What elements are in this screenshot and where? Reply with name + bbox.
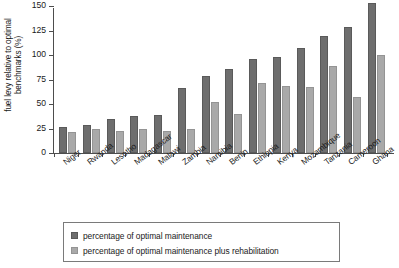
y-axis-tick-label: 125: [32, 25, 46, 35]
bar-optimal-maintenance: [178, 88, 186, 153]
bar-group: [342, 6, 366, 153]
y-axis-tick-label: 150: [32, 0, 46, 10]
bar-series-container: [53, 6, 394, 153]
bar-optimal-maintenance-plus-rehab: [306, 87, 314, 153]
bar-group: [200, 6, 224, 153]
legend-label: percentage of optimal maintenance plus r…: [83, 246, 279, 256]
legend-item: percentage of optimal maintenance plus r…: [71, 243, 332, 258]
bar-group: [152, 6, 176, 153]
bar-group: [57, 6, 81, 153]
bar-group: [271, 6, 295, 153]
bar-group: [366, 6, 390, 153]
bar-group: [223, 6, 247, 153]
bar-optimal-maintenance-plus-rehab: [211, 102, 219, 153]
bar-group: [81, 6, 105, 153]
bar-chart-figure: fuel levy relative to optimal benchmarks…: [0, 0, 399, 268]
bar-optimal-maintenance: [368, 3, 376, 153]
bar-group: [176, 6, 200, 153]
y-axis-tick-label: 50: [36, 98, 46, 108]
bar-optimal-maintenance: [344, 27, 352, 153]
y-axis-tick-label: 25: [36, 123, 46, 133]
bar-optimal-maintenance: [273, 57, 281, 153]
legend-item: percentage of optimal maintenance: [71, 228, 332, 243]
x-axis-tick: [54, 153, 55, 157]
bar-optimal-maintenance-plus-rehab: [282, 86, 290, 153]
light-swatch-icon: [71, 247, 78, 254]
bar-group: [105, 6, 129, 153]
y-axis-title: fuel levy relative to optimal benchmarks…: [4, 0, 24, 130]
bar-optimal-maintenance-plus-rehab: [258, 83, 266, 153]
bar-group: [247, 6, 271, 153]
bar-optimal-maintenance: [202, 76, 210, 153]
bar-group: [295, 6, 319, 153]
y-axis-tick-label: 75: [36, 74, 46, 84]
bar-optimal-maintenance: [297, 48, 305, 153]
y-axis-title-wrap: fuel levy relative to optimal benchmarks…: [0, 0, 26, 160]
legend-label: percentage of optimal maintenance: [83, 231, 212, 241]
y-axis-tick-label: 0: [41, 147, 46, 157]
bar-optimal-maintenance: [59, 127, 67, 153]
dark-swatch-icon: [71, 232, 78, 239]
bar-optimal-maintenance-plus-rehab: [353, 97, 361, 153]
y-axis-tick-label: 100: [32, 49, 46, 59]
bar-optimal-maintenance: [249, 59, 257, 153]
bar-optimal-maintenance: [83, 125, 91, 153]
bar-group: [318, 6, 342, 153]
legend: percentage of optimal maintenance percen…: [63, 222, 340, 262]
bar-group: [128, 6, 152, 153]
